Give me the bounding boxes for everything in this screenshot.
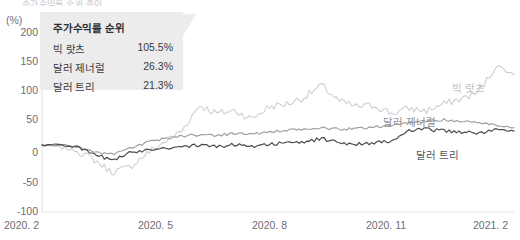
x-tick-2020-05: 2020. 5 bbox=[138, 219, 173, 231]
series-label-dollar-general: 달러 제너럴 bbox=[383, 114, 436, 129]
x-tick-2020-02: 2020. 2 bbox=[4, 219, 39, 231]
callout-name-big-lots: 빅 랏츠 bbox=[53, 41, 85, 56]
callout-pointer bbox=[183, 14, 196, 36]
callout-row-big-lots: 빅 랏츠 105.5% bbox=[53, 41, 173, 57]
callout-name-dollar-tree: 달러 트리 bbox=[53, 79, 95, 94]
callout-value-dollar-general: 26.3% bbox=[143, 60, 173, 72]
x-tick-2021-02: 2021. 2 bbox=[473, 219, 508, 231]
y-tick-0: 0 bbox=[4, 147, 38, 157]
callout-name-dollar-general: 달러 제너럴 bbox=[53, 60, 105, 75]
ranking-callout: 주가수익률 순위 빅 랏츠 105.5% 달러 제너럴 26.3% 달러 트리 … bbox=[40, 12, 183, 90]
x-tick-2020-11: 2020. 11 bbox=[366, 219, 406, 231]
chart-canvas: 주가수익률 순위 추이 (%) 200 150 100 50 0 -50 -10… bbox=[0, 0, 520, 240]
callout-row-dollar-general: 달러 제너럴 26.3% bbox=[53, 60, 173, 76]
y-tick-100: 100 bbox=[4, 85, 38, 95]
callout-value-big-lots: 105.5% bbox=[137, 41, 173, 53]
x-tick-2020-08: 2020. 8 bbox=[252, 219, 287, 231]
y-tick-neg50: -50 bbox=[4, 177, 38, 187]
cropped-title: 주가수익률 순위 추이 bbox=[22, 0, 202, 6]
callout-value-dollar-tree: 21.3% bbox=[143, 79, 173, 91]
x-axis-labels: 2020. 2 2020. 5 2020. 8 2020. 11 2021. 2 bbox=[0, 219, 520, 237]
callout-row-dollar-tree: 달러 트리 21.3% bbox=[53, 79, 173, 95]
y-tick-150: 150 bbox=[4, 56, 38, 66]
y-tick-200: 200 bbox=[4, 27, 38, 37]
y-axis-labels: 200 150 100 50 0 -50 -100 bbox=[0, 0, 38, 240]
series-label-dollar-tree: 달러 트리 bbox=[416, 147, 459, 162]
callout-title: 주가수익률 순위 bbox=[53, 20, 124, 35]
series-label-big-lots: 빅 랏츠 bbox=[452, 80, 485, 95]
y-tick-neg100: -100 bbox=[4, 206, 38, 216]
y-tick-50: 50 bbox=[4, 114, 38, 124]
